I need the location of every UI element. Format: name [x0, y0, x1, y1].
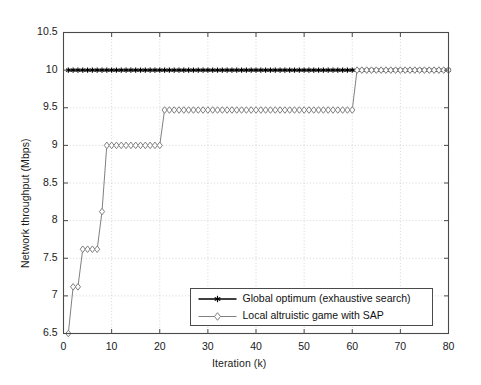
- legend-entry-label: Local altruistic game with SAP: [243, 309, 384, 321]
- chart-figure: Network throughput (Mbps) Iteration (k) …: [0, 0, 481, 385]
- legend-labels: Global optimum (exhaustive search)Local …: [0, 0, 481, 385]
- legend-entry-label: Global optimum (exhaustive search): [243, 292, 411, 304]
